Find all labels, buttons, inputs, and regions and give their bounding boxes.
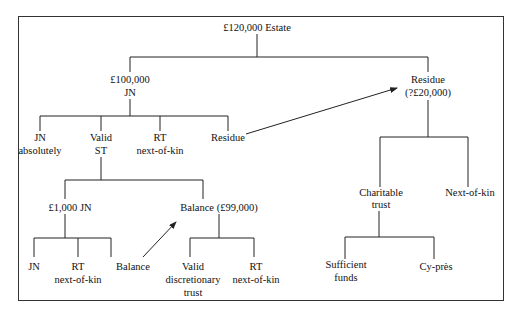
diagram-frame [18,16,504,301]
estate-tree-diagram: £120,000 Estate £100,000 JN JN absolutel… [0,0,521,321]
